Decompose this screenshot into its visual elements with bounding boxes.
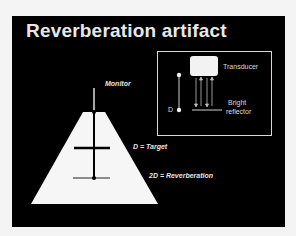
transducer-label: Transducer — [223, 63, 258, 70]
depth-bottom-dot — [177, 108, 181, 112]
depth-top-dot — [177, 73, 181, 77]
target-dot — [92, 146, 95, 149]
reflector-label-line2: reflector — [226, 108, 251, 115]
reverberation-label: 2D = Reverberation — [149, 172, 213, 179]
monitor-label: Monitor — [105, 80, 131, 87]
transducer-dot — [92, 110, 96, 114]
reverberation-dot — [92, 176, 96, 180]
echo-arrows — [195, 77, 214, 107]
reverberation-diagram — [0, 0, 296, 236]
depth-label: D — [168, 106, 173, 113]
reflector-label-line1: Bright — [228, 99, 246, 106]
target-label: D = Target — [133, 143, 167, 150]
transducer-block — [190, 56, 218, 76]
